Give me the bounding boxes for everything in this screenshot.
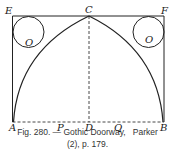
label-c: C xyxy=(85,4,93,15)
right-arc-bc xyxy=(89,16,163,122)
figure-caption-line2: (2), p. 179. xyxy=(0,139,175,150)
figure-caption-line1: Fig. 280. — Gothic Doorway, Parker xyxy=(0,127,175,138)
label-e: E xyxy=(4,5,13,16)
label-o-left: O xyxy=(25,37,33,48)
left-arc-ac xyxy=(14,16,90,122)
label-o-right: O xyxy=(145,34,153,45)
label-f: F xyxy=(160,5,169,16)
